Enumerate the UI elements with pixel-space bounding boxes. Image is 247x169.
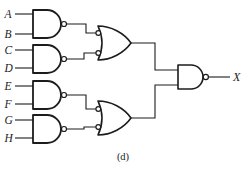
nand-gate-4-body <box>33 115 61 143</box>
negative-or-gate-2-body <box>98 101 131 135</box>
nand-gate-1-inverter-bubble <box>62 22 67 27</box>
wire-nand3-to-or2 <box>67 95 96 109</box>
nand-gate-3 <box>33 81 67 109</box>
nand-gate-1-body <box>33 10 61 38</box>
input-label-g: G <box>5 114 14 126</box>
nand-gate-3-body <box>33 81 61 109</box>
negative-or-gate-1-input-bubble-top <box>96 31 101 36</box>
figure-caption: (d) <box>117 151 130 163</box>
negative-or-gate-1-input-bubble-bottom <box>96 51 101 56</box>
wire-nand4-to-or2 <box>67 127 96 129</box>
output-label-x: X <box>232 70 241 84</box>
nand-gate-2 <box>33 45 67 73</box>
wire-or2-to-nand5 <box>131 85 178 118</box>
nand-gate-4 <box>33 115 67 143</box>
nand-gate-3-inverter-bubble <box>62 93 67 98</box>
negative-or-gate-2-input-bubble-top <box>96 107 101 112</box>
input-label-b: B <box>5 28 12 40</box>
logic-circuit-figure: A B C D E F G H X (d) <box>0 0 247 169</box>
circuit-svg: A B C D E F G H X (d) <box>0 0 247 169</box>
input-label-d: D <box>4 62 14 74</box>
wire-or1-to-nand5 <box>131 43 178 70</box>
input-label-a: A <box>4 8 13 20</box>
input-label-e: E <box>4 80 12 92</box>
negative-or-gate-2 <box>96 101 131 135</box>
input-label-c: C <box>5 44 13 56</box>
nand-gate-2-inverter-bubble <box>62 57 67 62</box>
input-labels: A B C D E F G H <box>4 8 14 144</box>
nand-gate-2-body <box>33 45 61 73</box>
nand-gate-5-output <box>178 65 208 89</box>
negative-or-gate-1 <box>96 26 131 60</box>
nand-gate-5-inverter-bubble <box>203 74 208 79</box>
nand-gate-1 <box>33 10 67 38</box>
input-label-f: F <box>4 98 13 110</box>
negative-or-gate-1-body <box>98 26 131 60</box>
nand-gate-4-inverter-bubble <box>62 127 67 132</box>
input-label-h: H <box>4 132 14 144</box>
wire-nand2-to-or1 <box>67 53 96 59</box>
nand-gate-5-body <box>178 65 203 89</box>
input-wires <box>15 14 33 138</box>
wire-nand1-to-or1 <box>67 24 96 33</box>
negative-or-gate-2-input-bubble-bottom <box>96 125 101 130</box>
